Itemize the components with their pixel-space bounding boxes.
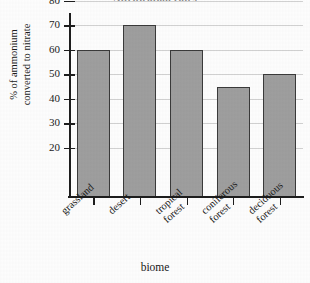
bar-desert: [123, 25, 156, 197]
y-tick-label-30: 30: [34, 117, 60, 128]
x-tick-grassland: [93, 198, 94, 205]
y-tick-label-40: 40: [34, 93, 60, 104]
y-axis-title-line-2: converted to nitrate: [20, 0, 33, 153]
bar-deciduous-forest: [263, 74, 296, 197]
y-tick-label-50: 50: [34, 68, 60, 79]
y-tick-label-80: 80: [34, 0, 60, 6]
y-tick-80: [64, 1, 75, 2]
bar-tropical-forest: [170, 50, 203, 197]
y-axis-title: % of ammonium converted to nitrate: [8, 0, 33, 153]
bar-grassland: [77, 50, 110, 197]
y-tick-label-70: 70: [34, 19, 60, 30]
gridline-80: [70, 1, 303, 2]
y-tick-label-20: 20: [34, 142, 60, 153]
x-tick-desert: [140, 198, 141, 205]
y-axis-tick-labels: 20304050607080: [34, 0, 60, 200]
gridline-70: [70, 25, 303, 26]
bar-chart-figure: Nitrification rates % of ammonium conver…: [0, 0, 310, 283]
y-axis-title-line-1: % of ammonium: [8, 0, 21, 153]
y-axis-line: [69, 13, 71, 198]
y-tick-label-60: 60: [34, 44, 60, 55]
x-axis-title: biome: [0, 261, 310, 273]
